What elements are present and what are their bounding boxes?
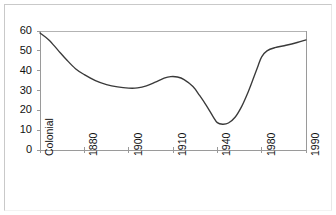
y-tick-label: 40 — [6, 65, 32, 76]
x-tick-label: 1980 — [266, 133, 277, 156]
line-chart-plot — [0, 0, 336, 215]
x-tick-label: 1910 — [177, 133, 188, 156]
y-tick-label: 30 — [6, 85, 32, 96]
y-tick-label: 10 — [6, 124, 32, 135]
x-tick-label: Colonial — [44, 118, 55, 156]
y-tick-label: 0 — [6, 144, 32, 155]
x-tick-label: 1880 — [88, 133, 99, 156]
x-tick-label: 1940 — [221, 133, 232, 156]
data-series-line — [40, 33, 306, 124]
y-tick-label: 50 — [6, 45, 32, 56]
x-tick-label: 1900 — [133, 133, 144, 156]
y-tick-label: 60 — [6, 25, 32, 36]
x-tick-label: 1990 — [310, 133, 321, 156]
chart-figure: 0102030405060 Colonial188019001910194019… — [0, 0, 336, 215]
y-tick-label: 20 — [6, 104, 32, 115]
